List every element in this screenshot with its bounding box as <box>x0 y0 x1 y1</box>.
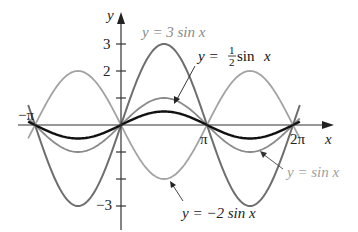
x-tick-2pi: 2π <box>290 131 306 147</box>
svg-text:y =: y = <box>196 48 219 64</box>
arrow-neg2sinx <box>172 184 183 201</box>
label-half-sinx: y = 1 2 sin x <box>196 44 271 68</box>
svg-text:sin: sin <box>237 48 255 64</box>
label-sinx: y = sin x <box>285 164 340 180</box>
y-tick-2: 2 <box>103 63 111 79</box>
y-tick-3: 3 <box>103 36 111 52</box>
x-tick-pi: π <box>200 131 208 147</box>
arrow-neg2sinx-head-icon <box>170 181 176 188</box>
y-axis-arrow-icon <box>117 12 125 24</box>
y-axis-label: y <box>105 7 114 23</box>
y-tick-neg3: −3 <box>96 197 112 213</box>
arrow-sinx-head-icon <box>260 151 267 158</box>
svg-text:x: x <box>263 48 271 64</box>
x-axis-label: x <box>324 131 332 147</box>
sine-graph: 3 2 −3 y −π π 2π x y = 3 sin x y = 1 2 s… <box>0 0 358 232</box>
svg-text:1: 1 <box>229 44 235 56</box>
label-neg2sinx: y = −2 sin x <box>180 205 256 221</box>
label-3sinx: y = 3 sin x <box>140 24 206 40</box>
svg-text:2: 2 <box>229 56 235 68</box>
x-axis-arrow-icon <box>322 121 334 129</box>
x-tick-neg-pi: −π <box>18 107 34 123</box>
